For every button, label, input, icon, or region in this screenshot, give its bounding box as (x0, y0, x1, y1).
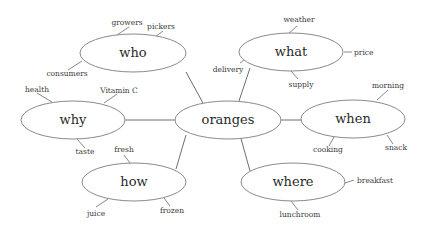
label-how: how (120, 174, 147, 189)
leaf-weather: weather (283, 15, 315, 24)
leaf-frozen: frozen (160, 206, 184, 215)
tick-morning (377, 90, 388, 100)
leaf-cooking: cooking (313, 145, 343, 154)
tick-lunchroom (291, 201, 298, 210)
tick-supply (291, 71, 298, 79)
leaf-taste: taste (76, 147, 95, 156)
tick-fresh (124, 155, 130, 163)
leaf-consumers: consumers (46, 69, 87, 78)
mind-map: oranges who what why when how where grow… (0, 0, 428, 232)
label-what: what (275, 44, 308, 59)
leaf-juice: juice (86, 209, 106, 218)
tick-vitamin-c (104, 94, 117, 103)
leaf-growers: growers (111, 18, 142, 27)
leaf-supply: supply (289, 80, 315, 89)
label-who: who (119, 45, 147, 60)
label-when: when (335, 111, 371, 126)
leaf-price: price (354, 48, 374, 57)
tick-juice (96, 199, 108, 207)
label-oranges: oranges (202, 112, 255, 127)
leaf-breakfast: breakfast (357, 176, 393, 185)
label-where: where (272, 174, 313, 189)
tick-breakfast (345, 180, 354, 183)
tick-health (37, 93, 52, 102)
leaf-snack: snack (385, 143, 407, 152)
connector-who (186, 72, 203, 103)
leaf-fresh: fresh (114, 145, 134, 154)
leaf-lunchroom: lunchroom (280, 210, 321, 219)
leaf-morning: morning (372, 81, 404, 90)
leaf-pickers: pickers (147, 22, 175, 31)
connector-how (176, 135, 186, 169)
leaf-delivery: delivery (213, 65, 244, 74)
tick-frozen (164, 198, 170, 206)
leaf-vitamin-c: Vitamin C (99, 86, 138, 95)
label-why: why (60, 112, 88, 127)
leaf-health: health (25, 85, 49, 94)
connector-where (240, 135, 250, 171)
